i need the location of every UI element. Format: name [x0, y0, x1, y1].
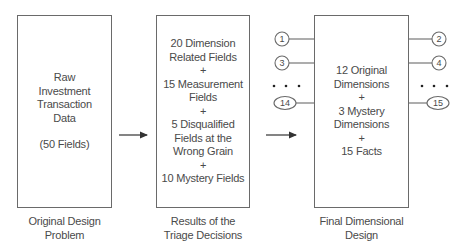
caption-line: Problem	[12, 229, 117, 243]
triage-results-box: 20 Dimension Related Fields + 15 Measure…	[156, 15, 250, 208]
svg-text:15: 15	[433, 98, 443, 108]
dimension-node-2: 2	[408, 32, 446, 46]
caption-line: Final Dimensional	[306, 215, 417, 229]
dimension-node-14: 14	[274, 97, 314, 110]
box-line: 3 Mystery	[339, 105, 385, 119]
box-line: 15 Measurement	[163, 78, 243, 92]
box-line: 12 Original	[336, 64, 387, 78]
box-line: Dimensions	[334, 78, 389, 92]
box-line: Related Fields	[169, 51, 237, 65]
box-line: 15 Facts	[341, 145, 382, 159]
caption-original: Original Design Problem	[12, 215, 117, 242]
dimension-node-1: 1	[275, 32, 314, 46]
box-line: Dimensions	[334, 118, 389, 132]
final-design-box: 12 Original Dimensions + 3 Mystery Dimen…	[314, 15, 409, 208]
box-line: Transaction	[37, 98, 92, 112]
box-line: 10 Mystery Fields	[162, 172, 245, 186]
box-line: +	[200, 105, 206, 119]
caption-line: Results of the	[150, 215, 256, 229]
box-line: +	[200, 159, 206, 173]
dimension-node-3: 3	[275, 56, 314, 70]
svg-text:1: 1	[279, 34, 284, 44]
caption-final: Final Dimensional Design	[306, 215, 417, 242]
box-line: 20 Dimension	[171, 37, 236, 51]
box-line: (50 Fields)	[40, 138, 90, 152]
dimension-node-15: 15	[408, 97, 449, 110]
box-line: Wrong Grain	[173, 145, 233, 159]
box-line: Fields at the	[174, 132, 231, 146]
dimension-node-4: 4	[408, 56, 446, 70]
svg-text:2: 2	[436, 34, 441, 44]
box-line: 5 Disqualified	[171, 118, 234, 132]
box-line: +	[200, 64, 206, 78]
svg-text:3: 3	[279, 58, 284, 68]
ellipsis-right	[421, 85, 449, 88]
svg-text:4: 4	[436, 58, 441, 68]
caption-line: Design	[306, 229, 417, 243]
box-line: Fields	[189, 91, 217, 105]
original-data-box: Raw Investment Transaction Data (50 Fiel…	[17, 15, 112, 208]
box-line: Raw	[54, 71, 75, 85]
box-line: +	[358, 91, 364, 105]
ellipsis-left	[273, 85, 301, 88]
box-line: Data	[53, 112, 75, 126]
svg-text:14: 14	[280, 98, 290, 108]
box-line: Investment	[39, 85, 91, 99]
caption-line: Original Design	[12, 215, 117, 229]
caption-line: Triage Decisions	[150, 229, 256, 243]
box-line: +	[358, 132, 364, 146]
caption-triage: Results of the Triage Decisions	[150, 215, 256, 242]
